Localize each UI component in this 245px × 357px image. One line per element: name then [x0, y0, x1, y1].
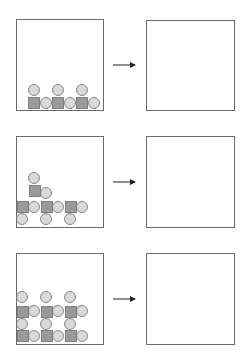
square-particle — [66, 307, 77, 318]
circle-particle — [29, 306, 40, 317]
circle-particle — [77, 331, 88, 342]
square-particle — [66, 202, 77, 213]
square-particle — [42, 202, 53, 213]
circle-particle — [29, 202, 40, 213]
circle-particle — [29, 331, 40, 342]
circle-particle — [17, 214, 28, 225]
circle-particle — [77, 85, 88, 96]
circle-particle — [53, 306, 64, 317]
left-container-box — [17, 20, 104, 111]
right-empty-answer-box — [147, 21, 235, 111]
circle-particle — [41, 292, 52, 303]
circle-particle — [65, 292, 76, 303]
right-empty-answer-box — [147, 137, 235, 228]
circle-particle — [77, 306, 88, 317]
right-empty-answer-box — [147, 254, 235, 345]
circle-particle — [29, 173, 40, 184]
square-particle — [30, 186, 41, 197]
circle-particle — [65, 319, 76, 330]
circle-particle — [41, 98, 52, 109]
circle-particle — [65, 214, 76, 225]
circle-particle — [65, 98, 76, 109]
circle-particle — [53, 331, 64, 342]
circle-particle — [41, 188, 52, 199]
circle-particle — [41, 214, 52, 225]
square-particle — [29, 98, 40, 109]
square-particle — [42, 307, 53, 318]
square-particle — [18, 307, 29, 318]
circle-particle — [53, 85, 64, 96]
square-particle — [18, 202, 29, 213]
circle-particle — [17, 292, 28, 303]
circle-particle — [89, 98, 100, 109]
circle-particle — [77, 202, 88, 213]
circle-particle — [41, 319, 52, 330]
square-particle — [42, 331, 53, 342]
circle-particle — [17, 319, 28, 330]
circle-particle — [53, 202, 64, 213]
left-container-box — [17, 137, 104, 228]
diagram-canvas — [0, 0, 245, 357]
square-particle — [66, 331, 77, 342]
square-particle — [53, 98, 64, 109]
square-particle — [77, 98, 88, 109]
square-particle — [18, 331, 29, 342]
circle-particle — [29, 85, 40, 96]
